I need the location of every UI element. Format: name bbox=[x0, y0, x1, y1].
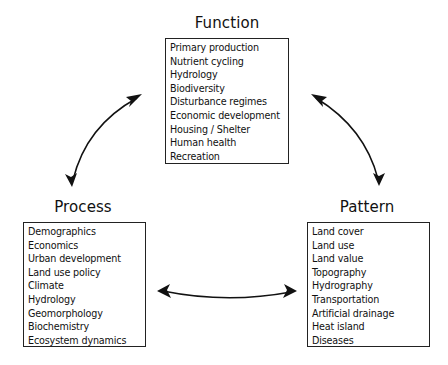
arrowhead-icon bbox=[373, 173, 385, 186]
arrow-function-process bbox=[65, 94, 142, 187]
arrowhead-icon bbox=[65, 173, 77, 187]
arrowhead-icon bbox=[311, 94, 327, 107]
arrow-function-pattern bbox=[311, 94, 385, 186]
arrowhead-icon bbox=[283, 284, 297, 298]
arrowhead-icon bbox=[157, 284, 171, 298]
arrowhead-icon bbox=[126, 94, 142, 107]
arrows-layer bbox=[0, 0, 448, 365]
arrow-process-pattern bbox=[157, 284, 297, 298]
